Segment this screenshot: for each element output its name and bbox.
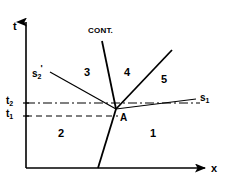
region-label-1: 1 bbox=[150, 128, 156, 139]
y-axis-label: t bbox=[13, 21, 17, 32]
region-label-3: 3 bbox=[84, 67, 90, 78]
x-axis-label: x bbox=[211, 163, 217, 174]
t2-tick-label: t2 bbox=[6, 96, 13, 106]
s2-subscript: 2 bbox=[38, 73, 42, 80]
s2-prime-label: s2' bbox=[32, 66, 44, 79]
cont-label: CONT. bbox=[88, 27, 113, 35]
s1-base: s bbox=[200, 92, 206, 103]
region-label-4: 4 bbox=[124, 67, 130, 78]
cont-curve-upper bbox=[102, 41, 116, 109]
s1-label: s1 bbox=[200, 93, 209, 103]
t2-subscript: 2 bbox=[9, 100, 13, 107]
s1-curve bbox=[116, 99, 196, 109]
t1-tick-label: t1 bbox=[6, 109, 13, 119]
phase-diagram-figure: t x t2 t1 s2' s1 CONT. A 1 2 3 4 5 bbox=[0, 0, 230, 183]
s2-base: s bbox=[32, 68, 38, 79]
cont-curve-lower bbox=[98, 109, 116, 168]
s2-prime-mark: ' bbox=[40, 63, 42, 73]
t1-subscript: 1 bbox=[9, 113, 13, 120]
diagram-canvas bbox=[0, 0, 230, 183]
region-label-5: 5 bbox=[161, 74, 167, 85]
s1-subscript: 1 bbox=[206, 97, 210, 104]
point-a-label: A bbox=[120, 113, 127, 123]
region-label-2: 2 bbox=[58, 128, 64, 139]
